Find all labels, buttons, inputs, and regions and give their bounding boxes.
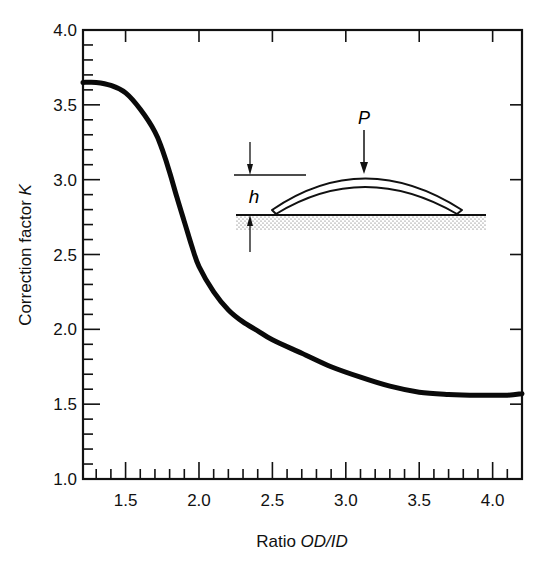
y-tick-label: 1.0 (53, 470, 77, 489)
y-axis-title-plain: Correction factor (16, 195, 35, 325)
y-tick-label: 3.0 (53, 171, 77, 190)
washer-arc (272, 179, 462, 215)
x-tick-label: 3.5 (407, 491, 431, 510)
height-label: h (249, 186, 260, 207)
x-tick-label: 2.5 (261, 491, 285, 510)
y-axis-title-italic: K (16, 183, 35, 195)
x-tick-label: 4.0 (481, 491, 505, 510)
x-tick-label: 3.0 (334, 491, 358, 510)
load-label: P (358, 108, 370, 128)
plot-frame (83, 30, 522, 479)
height-arrow-down-icon (247, 164, 253, 175)
ground-surface (236, 215, 486, 230)
y-tick-label: 2.0 (53, 320, 77, 339)
x-axis-tick-labels: 1.52.02.53.03.54.0 (114, 491, 505, 510)
y-tick-label: 4.0 (53, 21, 77, 40)
chart: 1.01.52.02.53.03.54.0 1.52.02.53.03.54.0… (0, 0, 542, 563)
x-tick-label: 2.0 (187, 491, 211, 510)
x-axis-title: Ratio OD/ID (256, 532, 348, 551)
x-axis-title-plain: Ratio (256, 532, 300, 551)
y-axis-ticks (83, 30, 522, 479)
data-series-k (83, 82, 522, 395)
load-arrow-icon (360, 162, 368, 174)
y-tick-label: 3.5 (53, 96, 77, 115)
x-tick-label: 1.5 (114, 491, 138, 510)
inset-washer-diagram: P h (234, 108, 486, 252)
y-tick-label: 1.5 (53, 395, 77, 414)
y-axis-title: Correction factor K (16, 183, 35, 325)
y-tick-label: 2.5 (53, 246, 77, 265)
x-axis-ticks (96, 30, 522, 479)
y-axis-tick-labels: 1.01.52.02.53.03.54.0 (53, 21, 77, 489)
x-axis-title-italic: OD/ID (301, 532, 348, 551)
